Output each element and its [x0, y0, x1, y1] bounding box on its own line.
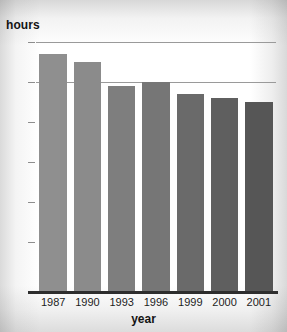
y-tick-mark-20: [28, 162, 35, 163]
y-tick-mark-0: [28, 242, 35, 243]
x-tick-label-2000: 2000: [207, 296, 241, 308]
y-tick-mark-10: [28, 202, 35, 203]
y-tick-mark-30: [28, 122, 35, 123]
bar-2000: [211, 98, 238, 291]
x-tick-label-1987: 1987: [36, 296, 70, 308]
bar-2001: [245, 102, 272, 291]
x-tick-label-1996: 1996: [139, 296, 173, 308]
x-tick-label-1993: 1993: [105, 296, 139, 308]
x-axis-line: [28, 291, 278, 294]
bar-1996: [142, 82, 169, 291]
bar-1993: [108, 86, 135, 291]
bar-chart-figure: hours 01020304050 1987199019931996199920…: [0, 0, 287, 332]
x-tick-label-2001: 2001: [242, 296, 276, 308]
y-axis-title: hours: [6, 18, 40, 32]
x-axis-title: year: [0, 312, 287, 326]
x-tick-label-1990: 1990: [70, 296, 104, 308]
x-tick-label-1999: 1999: [173, 296, 207, 308]
gridline-50: [36, 42, 276, 43]
y-tick-mark-40: [28, 82, 35, 83]
plot-area: 01020304050 1987199019931996199920002001: [36, 30, 276, 292]
bar-1987: [39, 54, 66, 291]
bar-1999: [177, 94, 204, 291]
bar-1990: [74, 62, 101, 291]
y-tick-mark-50: [28, 42, 35, 43]
